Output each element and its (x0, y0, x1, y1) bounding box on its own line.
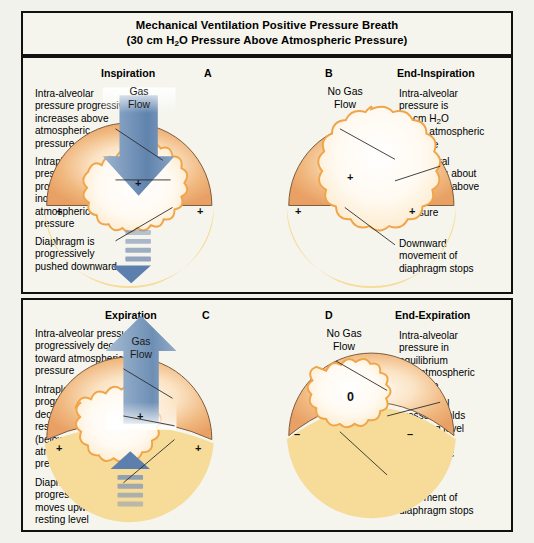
diaphragm-movement-arrow-a (112, 230, 151, 283)
diagram-title-box: Mechanical Ventilation Positive Pressure… (21, 11, 513, 56)
pressure-sign-right-b: + (409, 205, 415, 217)
gas-flow-label-b: No Gas Flow (307, 86, 383, 111)
pressure-sign-right-a: + (197, 205, 203, 217)
pressure-sign-center-b: + (347, 171, 353, 183)
pressure-sign-center-c: + (137, 410, 143, 422)
quadrant-end-expiration: End-Expiration D Intra-alveolar pressure… (269, 300, 515, 530)
quadrant-end-inspiration: End-Inspiration B Intra-alveolarpressure… (269, 58, 515, 292)
pressure-sign-center-d: 0 (347, 390, 354, 404)
pressure-sign-right-d: – (407, 428, 413, 440)
panel-expiration-group: Expiration C Intra-alveolar pressure pro… (21, 298, 513, 532)
lung-illustration-c (23, 300, 269, 530)
title-line-1: Mechanical Ventilation Positive Pressure… (136, 18, 399, 33)
pressure-sign-left-d: – (294, 428, 300, 440)
title-line-2-post: O Pressure Above Atmospheric Pressure) (179, 34, 407, 46)
gas-flow-label-c: Gas Flow (107, 336, 175, 361)
diagram-root: Mechanical Ventilation Positive Pressure… (0, 0, 534, 543)
gas-flow-label-d: No Gas Flow (305, 328, 383, 353)
pressure-sign-left-c: + (56, 442, 62, 454)
title-subscript: 2 (174, 39, 179, 48)
pressure-sign-left-b: + (295, 205, 301, 217)
quadrant-inspiration: Inspiration A Intra-alveolar pressure pr… (23, 58, 269, 292)
pressure-sign-right-c: + (195, 442, 201, 454)
lung-illustration-b (269, 58, 515, 292)
pressure-sign-left-a: + (56, 205, 62, 217)
quadrant-expiration: Expiration C Intra-alveolar pressure pro… (23, 300, 269, 530)
title-line-2-pre: (30 cm H (127, 34, 175, 46)
panel-inspiration-group: Inspiration A Intra-alveolar pressure pr… (21, 56, 513, 294)
title-line-2: (30 cm H2O Pressure Above Atmospheric Pr… (127, 33, 408, 50)
pressure-sign-center-a: + (135, 177, 141, 189)
gas-flow-label-a: Gas Flow (103, 86, 175, 111)
